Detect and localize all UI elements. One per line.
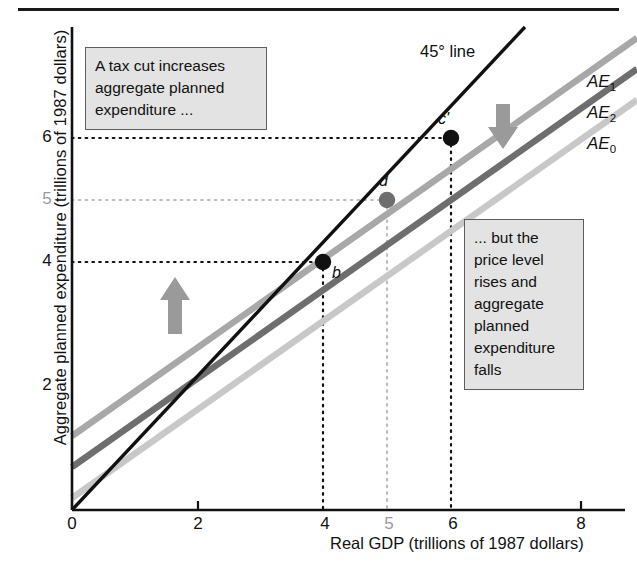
legend-ae2-name: AE — [587, 103, 610, 122]
legend-label-ae0: AE0 — [587, 134, 616, 155]
xtick-label-8: 8 — [566, 514, 596, 534]
point-label-b: b — [332, 264, 341, 282]
legend-ae2-sub: 2 — [610, 112, 616, 124]
xtick-label-2: 2 — [183, 514, 213, 534]
xtick-label-6: 6 — [438, 514, 468, 534]
line-45-degree-label: 45° line — [420, 42, 475, 61]
xtick-label-4: 4 — [310, 514, 340, 534]
xtick-label-5: 5 — [374, 514, 404, 534]
legend-ae1-sub: 1 — [610, 81, 616, 93]
x-axis-ticks — [198, 501, 581, 510]
legend-label-ae1: AE1 — [587, 72, 616, 93]
x-axis-title: Real GDP (trillions of 1987 dollars) — [330, 534, 584, 553]
legend-ae0-name: AE — [587, 134, 610, 153]
legend-ae1-name: AE — [587, 72, 610, 91]
callout-tax-cut: A tax cut increases aggregate planned ex… — [85, 47, 267, 130]
point-label-d: d — [379, 172, 388, 190]
callout-price-level: ... but the price level rises and aggreg… — [464, 219, 584, 390]
point-b — [315, 254, 331, 270]
point-d — [379, 192, 395, 208]
legend-label-ae2: AE2 — [587, 103, 616, 124]
legend-ae0-sub: 0 — [610, 143, 616, 155]
point-label-c-prime: c' — [438, 110, 449, 128]
arrow-up-icon — [160, 277, 190, 334]
y-axis-title: Aggregate planned expenditure (trillions… — [51, 28, 70, 448]
figure-canvas: b d c' 45° line AE1 AE2 AE0 6 5 4 2 0 2 … — [0, 0, 637, 567]
point-c-prime — [443, 130, 459, 146]
xtick-label-0: 0 — [57, 514, 87, 534]
